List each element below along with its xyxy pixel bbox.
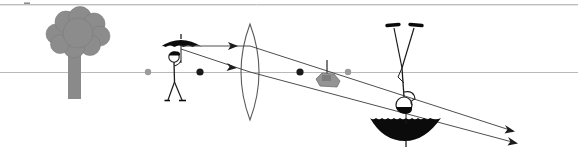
object-person-with-umbrella [160, 34, 202, 101]
focal-point-f-right [296, 68, 303, 75]
top-border-tick [24, 2, 30, 4]
image-leg-right [402, 28, 414, 68]
light-rays [181, 46, 516, 143]
object-torso [174, 62, 175, 82]
ray-diagram-canvas: Converging lens ray diagram Upright stic… [0, 0, 578, 152]
image-foot-right [410, 25, 422, 26]
object-leg-left [168, 82, 175, 100]
ray-parallel-refracted [250, 46, 513, 131]
object-cap-icon [169, 51, 180, 55]
ray-center-incident [181, 49, 250, 72]
image-person-with-umbrella-inverted [370, 25, 441, 148]
image-arm-hook [411, 99, 415, 105]
focal-point-2f-left [145, 69, 151, 75]
tree-canopy [46, 7, 110, 59]
arrow-parallel-refracted-icon [505, 125, 516, 134]
focal-point-2f-right [345, 69, 351, 75]
focal-point-f-left [196, 68, 203, 75]
optics-scene: Converging lens ray diagram Upright stic… [0, 0, 578, 152]
ray-arrowheads [227, 42, 519, 146]
image-foot-left [387, 25, 399, 26]
object-leg-right [175, 82, 183, 100]
background-tree [46, 7, 110, 100]
image-cap-icon [396, 107, 412, 114]
vehicle-cabin [322, 75, 331, 81]
image-leg-left [394, 28, 402, 68]
